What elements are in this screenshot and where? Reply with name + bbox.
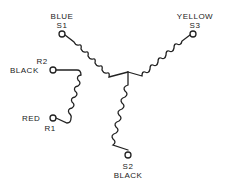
label-s1-id: S1 bbox=[44, 21, 80, 30]
coil-s1 bbox=[65, 35, 128, 77]
coil-s3 bbox=[128, 35, 190, 76]
label-r2-color: BLACK bbox=[10, 66, 39, 75]
label-s1-color: BLUE bbox=[44, 12, 80, 21]
wiring-diagram: BLUE S1 YELLOW S3 R2 BLACK RED R1 S2 BLA… bbox=[0, 0, 228, 187]
terminal-s2-circle bbox=[125, 152, 131, 158]
label-s3-color: YELLOW bbox=[174, 12, 216, 21]
label-s3-id: S3 bbox=[174, 21, 216, 30]
terminal-r2-circle bbox=[50, 67, 56, 73]
coil-r bbox=[56, 70, 81, 123]
terminal-s3-circle bbox=[190, 31, 196, 37]
label-r1-color: RED bbox=[22, 114, 40, 123]
coil-s2 bbox=[112, 72, 128, 150]
label-r2-id: R2 bbox=[30, 57, 54, 66]
terminal-s1-circle bbox=[59, 31, 65, 37]
terminal-r1-circle bbox=[50, 115, 56, 121]
label-s2-color: BLACK bbox=[106, 171, 150, 180]
label-s2-id: S2 bbox=[110, 162, 146, 171]
label-r1-id: R1 bbox=[38, 124, 62, 133]
